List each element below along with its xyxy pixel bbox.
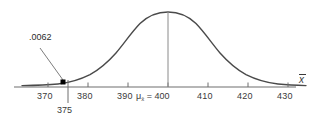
mean-equation: = 400 <box>147 91 170 101</box>
x-tick-label-410: 410 <box>197 91 213 101</box>
x-tick-label-430: 430 <box>277 91 293 101</box>
x-bar-symbol: x <box>299 74 304 85</box>
x-bar-axis-label: x <box>299 74 306 85</box>
critical-value-label: 375 <box>57 105 72 115</box>
tail-area-annotation-label: .0062 <box>29 32 52 42</box>
x-tick-label-390: 390 <box>117 91 133 101</box>
tail-point-marker <box>61 80 66 85</box>
x-tick-label-380: 380 <box>77 91 93 101</box>
normal-curve <box>22 12 306 86</box>
x-tick-label-370: 370 <box>37 91 53 101</box>
mean-subscript: x̄ <box>141 96 144 102</box>
mean-label: μx̄ = 400 <box>136 91 169 102</box>
x-tick-label-420: 420 <box>237 91 253 101</box>
distribution-plot <box>0 0 313 135</box>
annotation-leader-line <box>40 48 63 80</box>
normal-distribution-figure: .0062 370 380 390 μx̄ = 400 410 420 430 … <box>0 0 313 135</box>
